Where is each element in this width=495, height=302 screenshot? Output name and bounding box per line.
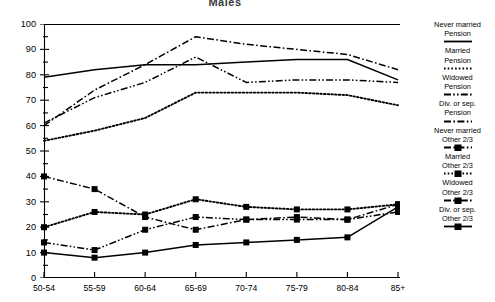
- series-line-1: [44, 93, 398, 141]
- series-marker-5: [243, 204, 249, 210]
- series-marker-5: [92, 209, 98, 215]
- legend-label-line2: Pension: [420, 56, 495, 65]
- plot-area: [40, 24, 400, 278]
- legend-item-2[interactable]: WidowedPension: [420, 73, 495, 98]
- legend-label-line2: Pension: [420, 82, 495, 91]
- series-marker-6: [193, 214, 199, 220]
- series-marker-7: [243, 239, 249, 245]
- series-marker-4: [193, 227, 199, 233]
- series-marker-7: [294, 237, 300, 243]
- legend-label-line1: Div. or sep.: [420, 99, 495, 108]
- legend-label-line2: Pension: [420, 108, 495, 117]
- series-marker-7: [92, 255, 98, 261]
- y-tick-label: 100: [21, 19, 36, 29]
- series-marker-6: [41, 239, 47, 245]
- legend-item-1[interactable]: MarriedPension: [420, 46, 495, 71]
- legend-label-line1: Married: [420, 152, 495, 161]
- legend-label-line2: Other 2/3: [420, 214, 495, 223]
- series-line-2: [44, 57, 398, 123]
- legend-label-line1: Never married: [420, 20, 495, 29]
- series-marker-7: [395, 204, 400, 210]
- legend-label-line2: Pension: [420, 29, 495, 38]
- line-chart-svg: [40, 24, 400, 278]
- x-axis-labels: 50-5455-5960-6465-6970-7475-7980-8485+: [40, 283, 400, 299]
- series-marker-6: [142, 227, 148, 233]
- y-tick-label: 50: [26, 146, 36, 156]
- series-marker-6: [243, 217, 249, 223]
- legend-swatch-icon: [420, 65, 495, 72]
- y-tick-label: 80: [26, 70, 36, 80]
- y-tick-label: 20: [26, 222, 36, 232]
- legend-item-5[interactable]: MarriedOther 2/3: [420, 152, 495, 177]
- series-marker-7: [193, 242, 199, 248]
- legend-label-line1: Widowed: [420, 73, 495, 82]
- legend-label-line1: Div. or sep.: [420, 205, 495, 214]
- series-line-3: [44, 37, 398, 126]
- x-tick-label-85+: 85+: [391, 283, 406, 293]
- page-title: Males: [150, 0, 300, 8]
- y-tick-label: 90: [26, 44, 36, 54]
- chart-figure: Males 0102030405060708090100 50-5455-596…: [0, 0, 495, 302]
- x-tick-label-80-84: 80-84: [336, 283, 358, 293]
- y-tick-label: 10: [26, 248, 36, 258]
- legend-swatch-icon: [420, 118, 495, 125]
- x-tick-label-70-74: 70-74: [235, 283, 257, 293]
- legend-swatch-icon: [420, 223, 495, 230]
- x-tick-label-60-64: 60-64: [134, 283, 156, 293]
- legend-swatch-icon: [420, 38, 495, 45]
- legend-label-line1: Widowed: [420, 178, 495, 187]
- series-marker-6: [294, 217, 300, 223]
- y-tick-label: 0: [31, 273, 36, 283]
- legend-item-7[interactable]: Div. or sep.Other 2/3: [420, 205, 495, 230]
- series-marker-7: [41, 250, 47, 256]
- legend-item-6[interactable]: WidowedOther 2/3: [420, 178, 495, 203]
- legend-swatch-icon: [420, 91, 495, 98]
- x-tick-label-55-59: 55-59: [84, 283, 106, 293]
- legend-item-3[interactable]: Div. or sep.Pension: [420, 99, 495, 124]
- series-marker-5: [294, 206, 300, 212]
- legend-label-line2: Other 2/3: [420, 188, 495, 197]
- legend-label-line1: Never married: [420, 126, 495, 135]
- series-marker-4: [92, 186, 98, 192]
- x-tick-label-65-69: 65-69: [185, 283, 207, 293]
- chart-legend: Never marriedPensionMarriedPensionWidowe…: [420, 20, 495, 282]
- series-marker-5: [193, 196, 199, 202]
- y-axis-labels: 0102030405060708090100: [0, 24, 36, 278]
- series-marker-5: [344, 206, 350, 212]
- legend-marker: [454, 197, 461, 204]
- legend-label-line2: Other 2/3: [420, 135, 495, 144]
- legend-swatch-icon: [420, 170, 495, 177]
- y-tick-label: 30: [26, 197, 36, 207]
- legend-label-line2: Other 2/3: [420, 161, 495, 170]
- series-marker-5: [41, 224, 47, 230]
- series-marker-5: [142, 212, 148, 218]
- legend-marker: [454, 145, 461, 152]
- x-tick-label-50-54: 50-54: [33, 283, 55, 293]
- legend-item-4[interactable]: Never marriedOther 2/3: [420, 126, 495, 151]
- y-tick-label: 60: [26, 121, 36, 131]
- legend-swatch-icon: [420, 144, 495, 151]
- series-marker-7: [344, 234, 350, 240]
- x-tick-label-75-79: 75-79: [286, 283, 308, 293]
- legend-marker: [454, 224, 461, 231]
- legend-swatch-icon: [420, 197, 495, 204]
- series-marker-6: [92, 247, 98, 253]
- legend-marker: [454, 171, 461, 178]
- legend-item-0[interactable]: Never marriedPension: [420, 20, 495, 45]
- legend-label-line1: Married: [420, 46, 495, 55]
- series-marker-7: [142, 250, 148, 256]
- series-marker-4: [41, 173, 47, 179]
- y-tick-label: 70: [26, 95, 36, 105]
- y-tick-label: 40: [26, 171, 36, 181]
- series-marker-6: [344, 217, 350, 223]
